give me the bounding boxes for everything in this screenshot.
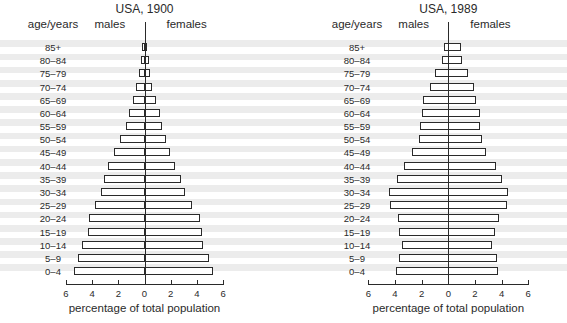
x-axis-title: percentage of total population: [373, 302, 525, 314]
male-bar: [82, 241, 145, 249]
male-bar: [74, 267, 146, 275]
row-stripe: [0, 106, 567, 113]
male-bar: [114, 148, 145, 156]
male-bar: [422, 109, 450, 117]
row-stripe: [0, 133, 567, 140]
x-tick-label: 4: [499, 288, 504, 299]
male-bar: [402, 241, 450, 249]
row-stripe: [0, 80, 567, 87]
female-bar: [448, 83, 473, 91]
female-bar: [145, 56, 150, 64]
x-tick: [197, 280, 198, 285]
male-bar: [398, 214, 450, 222]
age-group-label: 55–59: [344, 121, 370, 132]
age-group-label: 15–19: [344, 226, 370, 237]
age-group-label: 85+: [45, 42, 61, 53]
female-bar: [448, 69, 468, 77]
chart-title: USA, 1989: [419, 2, 477, 16]
age-group-label: 45–49: [344, 147, 370, 158]
age-group-label: 70–74: [40, 81, 66, 92]
x-tick-label: 6: [63, 288, 68, 299]
male-bar: [430, 83, 449, 91]
x-tick: [145, 280, 146, 285]
age-group-label: 5–9: [45, 252, 61, 263]
x-tick-label: 4: [392, 288, 397, 299]
male-bar: [104, 175, 146, 183]
male-bar: [399, 228, 449, 236]
male-bar: [390, 201, 449, 209]
female-bar: [448, 201, 507, 209]
female-bar: [448, 43, 461, 51]
x-tick: [92, 280, 93, 285]
x-tick-label: 2: [419, 288, 424, 299]
age-group-label: 35–39: [344, 173, 370, 184]
female-bar: [145, 228, 203, 236]
age-group-label: 65–69: [344, 94, 370, 105]
x-tick-label: 2: [168, 288, 173, 299]
row-stripe: [0, 54, 567, 61]
female-bar: [448, 96, 476, 104]
male-bar: [78, 254, 146, 262]
females-label: females: [470, 18, 510, 30]
x-tick: [448, 280, 449, 285]
age-group-label: 55–59: [40, 121, 66, 132]
female-bar: [448, 109, 479, 117]
male-bar: [412, 148, 449, 156]
female-bar: [448, 228, 495, 236]
female-bar: [448, 241, 492, 249]
age-group-label: 30–34: [344, 186, 370, 197]
age-group-label: 25–29: [40, 200, 66, 211]
x-tick: [422, 280, 423, 285]
x-tick: [118, 280, 119, 285]
male-bar: [120, 135, 146, 143]
male-bar: [423, 96, 449, 104]
males-label: males: [398, 18, 429, 30]
x-tick-label: 6: [526, 288, 531, 299]
x-tick-label: 2: [472, 288, 477, 299]
female-bar: [145, 175, 181, 183]
female-bar: [448, 162, 495, 170]
female-bar: [145, 122, 162, 130]
female-bar: [145, 43, 148, 51]
female-bar: [145, 241, 204, 249]
age-group-label: 50–54: [344, 134, 370, 145]
male-bar: [88, 228, 145, 236]
x-tick: [475, 280, 476, 285]
x-tick: [502, 280, 503, 285]
female-bar: [448, 267, 498, 275]
female-bar: [448, 188, 508, 196]
age-group-label: 65–69: [40, 94, 66, 105]
x-tick: [395, 280, 396, 285]
age-group-label: 0–4: [349, 266, 365, 277]
age-group-label: 35–39: [40, 173, 66, 184]
female-bar: [145, 135, 167, 143]
age-group-label: 70–74: [344, 81, 370, 92]
row-stripe: [0, 40, 567, 47]
female-bar: [448, 175, 501, 183]
female-bar: [145, 188, 186, 196]
female-bar: [448, 56, 462, 64]
x-tick: [528, 280, 529, 285]
female-bar: [145, 69, 151, 77]
age-group-label: 20–24: [40, 213, 66, 224]
x-tick-label: 4: [89, 288, 94, 299]
male-bar: [404, 162, 449, 170]
female-bar: [145, 162, 175, 170]
age-group-label: 45–49: [40, 147, 66, 158]
age-group-label: 30–34: [40, 186, 66, 197]
age-group-label: 50–54: [40, 134, 66, 145]
chart-title: USA, 1900: [115, 2, 173, 16]
age-group-label: 15–19: [40, 226, 66, 237]
male-bar: [101, 188, 145, 196]
male-bar: [129, 109, 146, 117]
x-tick: [368, 280, 369, 285]
x-tick: [171, 280, 172, 285]
male-bar: [95, 201, 146, 209]
male-bar: [399, 254, 449, 262]
male-bar: [389, 188, 449, 196]
age-group-label: 40–44: [344, 160, 370, 171]
female-bar: [448, 148, 486, 156]
female-bar: [145, 109, 160, 117]
age-axis-label: age/years: [332, 18, 383, 30]
age-group-label: 40–44: [40, 160, 66, 171]
